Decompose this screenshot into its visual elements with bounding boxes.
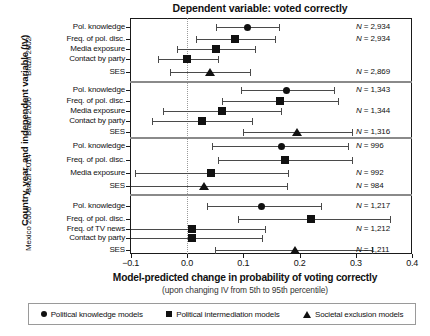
ci-cap-high <box>281 108 282 115</box>
data-point-triangle <box>199 182 209 190</box>
sample-size-label: N = 1,344 <box>356 106 390 115</box>
ci-cap-low <box>135 170 136 177</box>
ci-cap-high <box>250 69 251 76</box>
row-label: SES <box>0 67 130 76</box>
sample-size-label: N = 984 <box>356 181 384 190</box>
legend-label-2: Societal exclusion models <box>315 310 403 319</box>
ci-cap-high <box>252 118 253 125</box>
sample-size-label: N = 2,934 <box>356 34 390 43</box>
row-label-wrap: Media exposure <box>0 44 130 53</box>
ci-cap-high <box>348 143 349 150</box>
ci-cap-low <box>152 118 153 125</box>
row-label-wrap: Media exposure <box>0 168 130 177</box>
row-label-wrap: Pol. knowledge <box>0 85 130 94</box>
data-point-triangle <box>292 128 302 136</box>
row-label: Media exposure <box>0 44 130 53</box>
data-point-square <box>183 55 191 63</box>
ci-cap-high <box>334 87 335 94</box>
ci-cap-low <box>177 46 178 53</box>
sample-size-label: N = 992 <box>356 168 384 177</box>
row-label-wrap: SES <box>0 245 130 254</box>
confidence-interval-line <box>131 238 262 239</box>
row-axis-tick <box>126 186 130 187</box>
row-axis-tick <box>126 49 130 50</box>
row-label: SES <box>0 181 130 190</box>
ci-cap-high <box>275 36 276 43</box>
row-label: SES <box>0 245 130 254</box>
panel-separator <box>130 137 412 139</box>
ci-cap-high <box>390 216 391 223</box>
row-label: Pol. knowledge <box>0 141 130 150</box>
ci-cap-high <box>338 98 339 105</box>
legend-item-square: Political intermediation models <box>166 310 279 319</box>
row-label-wrap: Contact by party <box>0 233 130 242</box>
ci-cap-low <box>243 129 244 136</box>
legend-item-circle: Political knowledge models <box>41 310 143 319</box>
row-axis-tick <box>126 250 130 251</box>
ci-cap-low <box>207 203 208 210</box>
row-label: Media exposure <box>0 168 130 177</box>
ci-cap-high <box>255 46 256 53</box>
row-axis-tick <box>126 59 130 60</box>
row-label: Pol. knowledge <box>0 85 130 94</box>
row-label: Contact by party <box>0 54 130 63</box>
row-axis-tick <box>126 132 130 133</box>
ci-cap-low <box>238 216 239 223</box>
row-axis-tick <box>126 160 130 161</box>
data-point-square <box>207 169 215 177</box>
legend: Political knowledge models Political int… <box>28 303 416 325</box>
row-axis-tick <box>126 111 130 112</box>
x-axis-tick-label: −0.1 <box>111 258 151 268</box>
circle-marker-icon <box>41 311 47 317</box>
row-label-wrap: Pol. knowledge <box>0 141 130 150</box>
x-axis-tick-label: 0.2 <box>280 258 320 268</box>
row-label-wrap: SES <box>0 127 130 136</box>
row-axis-tick <box>126 206 130 207</box>
x-axis-tick-label: 0.3 <box>336 258 376 268</box>
row-axis-tick <box>126 101 130 102</box>
data-point-square <box>188 234 196 242</box>
row-label-wrap: Freq. of pol. disc. <box>0 214 130 223</box>
ci-cap-high <box>287 183 288 190</box>
ci-cap-low <box>218 157 219 164</box>
ci-cap-low <box>170 69 171 76</box>
x-axis-sublabel: (upon changing IV from 5th to 95th perce… <box>60 285 430 295</box>
data-point-triangle <box>290 246 300 254</box>
row-label: Contact by party <box>0 233 130 242</box>
ci-cap-high <box>288 170 289 177</box>
data-point-square <box>198 117 206 125</box>
row-axis-tick <box>126 229 130 230</box>
row-axis-tick <box>126 121 130 122</box>
data-point-square <box>231 35 239 43</box>
sample-size-label: N = 1,212 <box>356 224 390 233</box>
row-label-wrap: Media exposure <box>0 106 130 115</box>
row-axis-tick <box>126 27 130 28</box>
triangle-marker-icon <box>303 311 311 318</box>
ci-cap-low <box>158 56 159 63</box>
data-point-square <box>281 156 289 164</box>
ci-cap-low <box>222 98 223 105</box>
ci-cap-low <box>215 247 216 254</box>
square-marker-icon <box>166 311 172 317</box>
ci-cap-high <box>352 157 353 164</box>
row-label-wrap: SES <box>0 181 130 190</box>
forest-plot-figure: Dependent variable: voted correctly Coun… <box>0 0 430 336</box>
row-label-wrap: SES <box>0 67 130 76</box>
row-label: Freq. of pol. disc. <box>0 155 130 164</box>
row-label-wrap: Pol. knowledge <box>0 22 130 31</box>
row-axis-tick <box>126 146 130 147</box>
ci-cap-high <box>352 129 353 136</box>
sample-size-label: N = 1,211 <box>356 245 389 254</box>
row-label-wrap: Pol. knowledge <box>0 201 130 210</box>
legend-label-1: Political intermediation models <box>176 310 279 319</box>
row-label: Freq. of pol. disc. <box>0 96 130 105</box>
data-point-circle <box>244 24 251 31</box>
row-axis-tick <box>126 39 130 40</box>
panel-separator <box>130 194 412 196</box>
row-axis-tick <box>126 238 130 239</box>
panel-separator <box>130 81 412 83</box>
ci-cap-low <box>212 143 213 150</box>
row-label: SES <box>0 127 130 136</box>
row-axis-tick <box>126 72 130 73</box>
row-label-wrap: Freq. of pol. disc. <box>0 34 130 43</box>
